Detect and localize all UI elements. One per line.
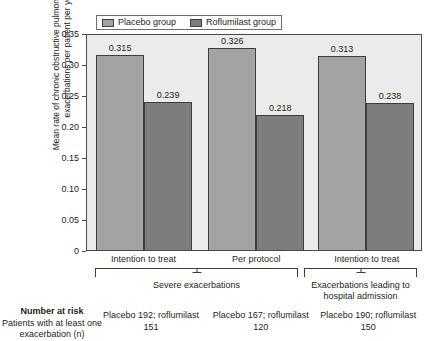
bar-roflumilast[interactable] [366,103,414,250]
bracket-nub-icon [196,268,197,273]
bar-value-label: 0.315 [109,43,132,53]
bar-placebo[interactable] [318,56,366,250]
bar-slot-placebo: 0.326 [208,35,256,250]
bar-value-label: 0.239 [157,90,180,100]
y-axis-tick: 0.35 [61,29,86,39]
x-axis-category: Intention to treat [311,254,422,265]
bar-roflumilast[interactable] [144,102,192,250]
y-axis-tick: 0 [74,246,86,256]
legend-swatch-placebo-icon [102,19,114,27]
number-at-risk-heading: Number at risk Patients with at least on… [0,306,104,341]
x-axis-category: Intention to treat [86,254,201,265]
x-axis-labels: Intention to treat Per protocol Intentio… [86,254,422,265]
bracket-label-hospital: Exacerbations leading to hospital admiss… [304,280,417,302]
number-at-risk-cell: Placebo 167; roflumilast 120 [207,310,315,333]
group-bracket-labels: Severe exacerbations Exacerbations leadi… [95,280,417,306]
bar-slot-placebo: 0.315 [96,35,144,250]
legend-item-placebo: Placebo group [102,18,176,27]
number-at-risk-cell: Placebo 192; roflumilast 151 [95,310,207,333]
bar-roflumilast[interactable] [256,115,304,250]
y-axis-ticks: 0.35 0.30 0.25 0.20 0.15 0.10 0.05 0 [0,34,86,251]
chart-legend: Placebo group Roflumilast group [96,15,282,30]
number-at-risk-values: Placebo 192; roflumilast 151 Placebo 167… [95,310,422,333]
legend-label-placebo: Placebo group [118,18,176,27]
bracket-severe-exacerbations [95,268,298,277]
y-axis-tick: 0.30 [61,60,86,70]
legend-label-roflumilast: Roflumilast group [206,18,276,27]
bar-slot-placebo: 0.313 [318,35,366,250]
number-at-risk-subtitle: Patients with at least one exacerbation … [0,318,104,341]
bar-group: 0.313 0.238 [311,35,421,250]
bar-slot-roflumilast: 0.218 [256,35,304,250]
chart-figure: Placebo group Roflumilast group Mean rat… [0,0,429,341]
legend-item-roflumilast: Roflumilast group [190,18,276,27]
y-axis-tick: 0.10 [61,184,86,194]
y-axis-tick: 0.25 [61,91,86,101]
bracket-label-severe: Severe exacerbations [95,280,298,291]
bar-value-label: 0.238 [379,91,402,101]
bar-slot-roflumilast: 0.238 [366,35,414,250]
y-axis-tick: 0.15 [61,153,86,163]
number-at-risk-cell: Placebo 190; roflumilast 150 [314,310,422,333]
bar-groups: 0.315 0.239 0.326 0.218 [87,35,421,250]
bar-placebo[interactable] [208,48,256,250]
y-axis-tick: 0.20 [61,122,86,132]
bar-placebo[interactable] [96,55,144,250]
bracket-hospital-admission [304,268,417,277]
bar-value-label: 0.218 [269,103,292,113]
legend-swatch-roflumilast-icon [190,19,202,27]
number-at-risk-title: Number at risk [0,306,104,318]
bar-slot-roflumilast: 0.239 [144,35,192,250]
group-brackets [95,268,417,278]
bracket-nub-icon [360,268,361,273]
y-axis-tick: 0.05 [61,215,86,225]
bar-group: 0.326 0.218 [201,35,311,250]
bar-value-label: 0.313 [331,44,354,54]
plot-area: 0.315 0.239 0.326 0.218 [86,34,422,251]
bar-group: 0.315 0.239 [87,35,201,250]
x-axis-category: Per protocol [201,254,312,265]
bar-value-label: 0.326 [221,36,244,46]
